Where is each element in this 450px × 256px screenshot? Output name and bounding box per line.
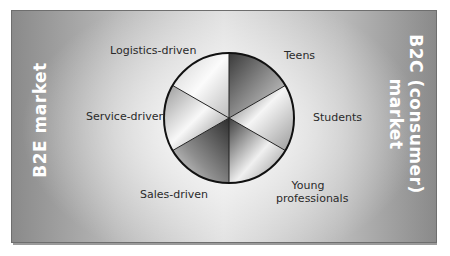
segment-label-teens: Teens (284, 49, 315, 62)
segment-label-service-driven: Service-driven (86, 110, 165, 123)
segment-pie (0, 0, 450, 256)
segment-label-logistics-driven: Logistics-driven (110, 44, 196, 57)
segment-label-sales-driven: Sales-driven (140, 188, 208, 201)
segment-label-young-professionals: Young professionals (276, 179, 340, 205)
segment-label-students: Students (313, 111, 362, 124)
